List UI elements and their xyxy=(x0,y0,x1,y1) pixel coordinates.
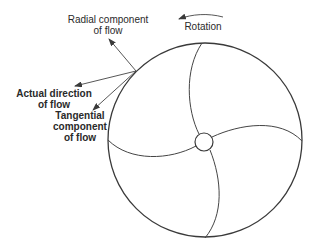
tangential-label-line-2: component xyxy=(50,121,110,132)
impeller-hub xyxy=(195,133,213,151)
impeller-blade-top xyxy=(189,43,202,134)
actual-label-line-1: Actual direction xyxy=(14,88,94,99)
impeller-blade-right xyxy=(212,125,302,141)
rotation-label: Rotation xyxy=(178,21,228,32)
tangential-component-label: Tangential component of flow xyxy=(50,110,110,143)
tangential-label-line-1: Tangential xyxy=(50,110,110,121)
actual-label-line-2: of flow xyxy=(14,99,94,110)
rotation-arrow-icon xyxy=(179,15,223,19)
impeller-drawing xyxy=(0,0,319,246)
actual-direction-label: Actual direction of flow xyxy=(14,88,94,110)
radial-component-label: Radial component of flow xyxy=(56,14,160,36)
impeller-diagram: Radial component of flow Actual directio… xyxy=(0,0,319,246)
actual-direction-arrow-icon xyxy=(75,71,136,86)
radial-component-arrow-icon xyxy=(109,39,136,71)
tangential-label-line-3: of flow xyxy=(50,132,110,143)
impeller-blade-bottom xyxy=(205,150,219,238)
radial-label-line-2: of flow xyxy=(56,25,160,36)
impeller-blade-left xyxy=(108,140,196,157)
radial-label-line-1: Radial component xyxy=(56,14,160,25)
